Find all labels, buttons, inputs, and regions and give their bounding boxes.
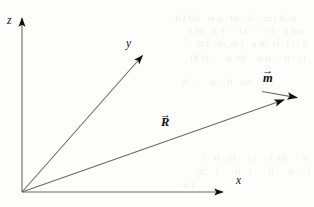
vector-arrow-accent-m: → [262, 65, 273, 76]
axis-line-y [22, 56, 143, 193]
vector-diagram-figure: lr·,ll l nr· - il·, lrl ·,u m · rlll l i… [0, 0, 314, 207]
axis-label-y: y [126, 38, 131, 50]
vector-label-R-wrap: → R [161, 116, 169, 129]
vector-label-m: → m [263, 72, 273, 85]
axis-label-x: x [236, 175, 241, 187]
vector-line-R [22, 100, 284, 192]
vector-label-m-wrap: → m [263, 72, 273, 85]
axis-label-z: z [7, 15, 11, 27]
vector-label-R: → R [161, 116, 169, 129]
vector-arrow-accent-R: → [160, 109, 171, 120]
diagram-canvas [0, 0, 314, 207]
vector-line-m [262, 92, 297, 98]
